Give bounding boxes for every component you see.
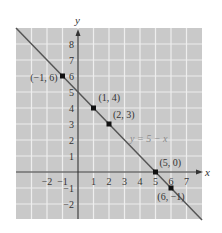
y-tick-label: 6 — [69, 71, 74, 82]
line-chart: −2−1123456787654321−1−2 (−1, 6)(1, 4)(2,… — [0, 0, 222, 233]
x-axis-label: x — [204, 166, 210, 178]
y-tick-label: 8 — [69, 39, 74, 50]
x-tick-label: 2 — [107, 176, 112, 187]
y-tick-label: 2 — [69, 135, 74, 146]
y-tick-label: 1 — [69, 151, 74, 162]
data-point-label: (6, −1) — [157, 191, 184, 203]
data-point-marker — [153, 170, 158, 175]
data-point-marker — [169, 186, 174, 191]
x-tick-label: 3 — [122, 176, 127, 187]
data-point-label: (−1, 6) — [30, 72, 57, 84]
y-tick-label: 7 — [69, 55, 74, 66]
x-tick-label: −2 — [42, 176, 53, 187]
x-tick-label: 1 — [91, 176, 96, 187]
data-point-label: (2, 3) — [113, 109, 135, 121]
equation-label: y = 5 − x — [129, 133, 168, 144]
y-tick-label: −2 — [63, 199, 74, 210]
data-point-label: (1, 4) — [99, 92, 121, 104]
y-tick-label: 4 — [69, 103, 74, 114]
y-axis-label: y — [74, 14, 80, 26]
data-point-label: (5, 0) — [160, 157, 182, 169]
x-tick-label: 5 — [153, 176, 158, 187]
data-point-marker — [107, 122, 112, 127]
data-point-marker — [91, 106, 96, 111]
y-tick-label: −1 — [63, 183, 74, 194]
x-tick-label: 7 — [184, 176, 189, 187]
x-tick-label: 4 — [138, 176, 143, 187]
data-point-marker — [60, 74, 65, 79]
y-tick-label: 3 — [69, 119, 74, 130]
